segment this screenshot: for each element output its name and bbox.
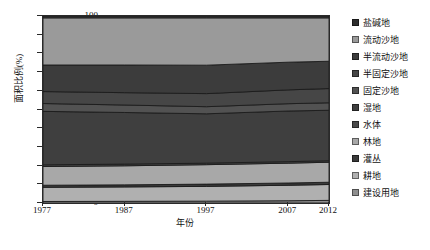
legend-swatch-icon xyxy=(352,121,359,128)
x-tick-label: 2012 xyxy=(308,205,348,215)
legend-label: 半固定沙地 xyxy=(363,69,408,79)
legend-item[interactable]: 林地 xyxy=(352,133,430,150)
chart-figure: 面积比例(%) 1009080706050403020100 197719871… xyxy=(0,0,430,250)
legend-swatch-icon xyxy=(352,138,359,145)
stacked-area-series xyxy=(43,16,329,203)
area-band xyxy=(43,61,329,93)
x-tick-mark xyxy=(287,202,288,206)
x-tick-label: 1997 xyxy=(185,205,225,215)
legend-swatch-icon xyxy=(352,70,359,77)
legend-swatch-icon xyxy=(352,189,359,196)
legend-label: 林地 xyxy=(363,137,381,147)
legend-item[interactable]: 固定沙地 xyxy=(352,82,430,99)
y-axis-title: 面积比例(%) xyxy=(12,9,25,149)
legend-swatch-icon xyxy=(352,155,359,162)
x-tick-label: 1977 xyxy=(22,205,62,215)
legend-label: 流动沙地 xyxy=(363,35,399,45)
area-band xyxy=(43,18,329,65)
legend-label: 建设用地 xyxy=(363,188,399,198)
area-band xyxy=(43,16,329,18)
legend-swatch-icon xyxy=(352,87,359,94)
x-tick-label: 2007 xyxy=(267,205,307,215)
legend-item[interactable]: 湿地 xyxy=(352,99,430,116)
legend-item[interactable]: 半固定沙地 xyxy=(352,65,430,82)
legend-item[interactable]: 水体 xyxy=(352,116,430,133)
legend-swatch-icon xyxy=(352,172,359,179)
legend-swatch-icon xyxy=(352,104,359,111)
legend-label: 盐碱地 xyxy=(363,18,390,28)
legend-item[interactable]: 灌丛 xyxy=(352,150,430,167)
x-tick-mark xyxy=(205,202,206,206)
x-tick-mark xyxy=(42,202,43,206)
legend-item[interactable]: 流动沙地 xyxy=(352,31,430,48)
x-tick-label: 1987 xyxy=(104,205,144,215)
legend-swatch-icon xyxy=(352,36,359,43)
legend-label: 耕地 xyxy=(363,171,381,181)
legend-swatch-icon xyxy=(352,53,359,60)
legend-item[interactable]: 半流动沙地 xyxy=(352,48,430,65)
legend-label: 水体 xyxy=(363,120,381,130)
legend-item[interactable]: 建设用地 xyxy=(352,184,430,201)
x-tick-mark xyxy=(328,202,329,206)
legend-item[interactable]: 盐碱地 xyxy=(352,14,430,31)
x-axis-title: 年份 xyxy=(42,216,328,229)
legend-swatch-icon xyxy=(352,19,359,26)
legend-label: 湿地 xyxy=(363,103,381,113)
plot-area xyxy=(42,15,330,204)
x-tick-mark xyxy=(124,202,125,206)
legend-item[interactable]: 耕地 xyxy=(352,167,430,184)
area-band xyxy=(43,110,329,165)
legend-label: 半流动沙地 xyxy=(363,52,408,62)
legend-label: 灌丛 xyxy=(363,154,381,164)
chart-legend: 盐碱地流动沙地半流动沙地半固定沙地固定沙地湿地水体林地灌丛耕地建设用地 xyxy=(352,14,430,201)
legend-label: 固定沙地 xyxy=(363,86,399,96)
